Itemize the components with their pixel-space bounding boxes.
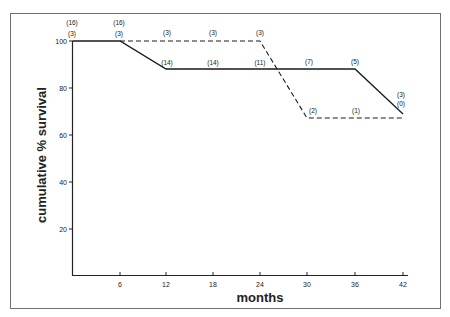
x-tick-label: 30	[303, 281, 311, 288]
svg-text:(14): (14)	[161, 59, 173, 67]
survival-chart: 20 40 60 80 100 6 12 18 24 30 36 42 mont…	[0, 0, 450, 317]
x-tick-label: 36	[351, 281, 359, 288]
y-tick-label: 100	[55, 38, 67, 45]
series-dashed-line	[120, 41, 403, 118]
svg-text:(3): (3)	[256, 29, 264, 37]
y-tick-label: 80	[59, 85, 67, 92]
svg-text:(3): (3)	[115, 30, 123, 38]
x-axis-title: months	[237, 290, 284, 305]
y-ticks: 20 40 60 80 100	[55, 38, 72, 233]
svg-text:(3): (3)	[397, 91, 405, 99]
svg-text:(7): (7)	[305, 58, 313, 66]
svg-text:(5): (5)	[351, 58, 359, 66]
x-tick-label: 12	[162, 281, 170, 288]
svg-text:(3): (3)	[68, 30, 76, 38]
x-tick-label: 42	[399, 281, 407, 288]
x-tick-label: 18	[209, 281, 217, 288]
y-tick-label: 40	[59, 179, 67, 186]
y-tick-label: 20	[59, 226, 67, 233]
svg-text:(1): (1)	[352, 107, 360, 115]
x-tick-label: 24	[256, 281, 264, 288]
svg-text:(16): (16)	[66, 19, 78, 27]
svg-text:(0): (0)	[397, 100, 405, 108]
svg-text:(14): (14)	[207, 59, 219, 67]
y-axis-title: cumulative % survival	[34, 87, 49, 223]
x-tick-label: 6	[118, 281, 122, 288]
x-ticks: 6 12 18 24 30 36 42	[118, 272, 407, 288]
svg-text:(16): (16)	[113, 19, 125, 27]
svg-text:(3): (3)	[163, 29, 171, 37]
svg-text:(2): (2)	[309, 107, 317, 115]
y-tick-label: 60	[59, 132, 67, 139]
svg-text:(3): (3)	[209, 29, 217, 37]
svg-text:(11): (11)	[254, 59, 265, 67]
n-at-risk-labels: (16) (3) (16) (3) (3) (14) (3) (14) (3) …	[66, 19, 405, 115]
series-solid-line	[73, 41, 404, 114]
